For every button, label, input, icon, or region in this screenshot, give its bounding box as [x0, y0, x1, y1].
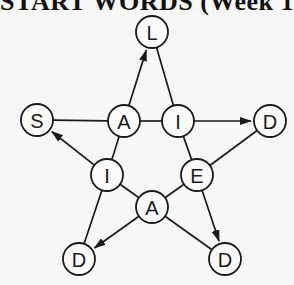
node-letter: D: [218, 249, 232, 271]
arrow-edge-13: [94, 216, 138, 248]
node-letter: L: [146, 22, 157, 44]
letter-node-d: D: [63, 243, 95, 275]
node-letter: I: [175, 111, 181, 133]
edge-14: [165, 216, 212, 249]
letter-node-s: S: [21, 104, 53, 136]
letter-node-i: I: [162, 105, 194, 137]
node-letter: A: [145, 197, 159, 219]
letter-node-i: I: [91, 159, 123, 191]
letter-node-a: A: [136, 191, 168, 223]
node-letter: A: [117, 111, 131, 133]
edge-5: [112, 136, 119, 159]
edge-4: [156, 47, 173, 105]
nodes-layer: LSAIDIEADD: [21, 16, 286, 275]
node-letter: I: [104, 165, 110, 187]
arrow-edge-3: [129, 50, 146, 106]
node-letter: D: [72, 249, 86, 271]
edge-12: [165, 184, 184, 197]
letter-node-l: L: [136, 16, 168, 48]
letter-node-e: E: [181, 159, 213, 191]
star-diagram: LSAIDIEADD: [0, 0, 294, 285]
arrow-edge-9: [202, 190, 219, 241]
arrow-edge-6: [52, 132, 94, 165]
edge-10: [84, 190, 102, 244]
letter-node-d: D: [209, 243, 241, 275]
edge-8: [210, 131, 257, 166]
edge-7: [183, 136, 191, 160]
node-letter: E: [190, 165, 203, 187]
letter-node-d: D: [254, 105, 286, 137]
letter-node-a: A: [108, 105, 140, 137]
edge-11: [120, 184, 139, 197]
node-letter: S: [30, 110, 43, 132]
node-letter: D: [263, 111, 277, 133]
edge-0: [53, 120, 108, 121]
